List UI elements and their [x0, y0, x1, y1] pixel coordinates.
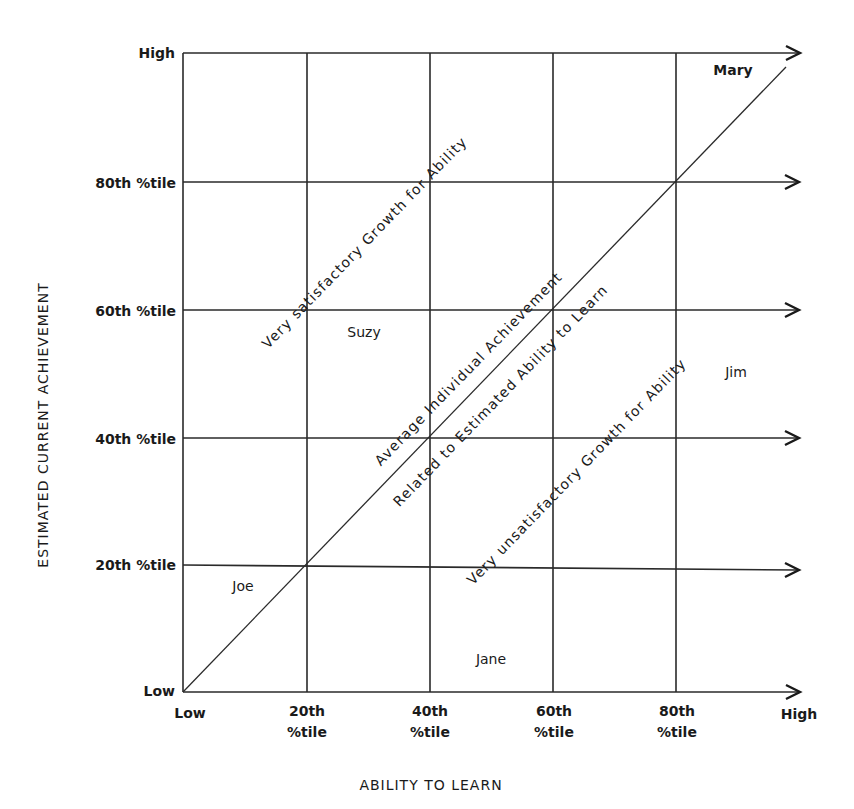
x-low-label: Low	[174, 705, 206, 721]
y-tick-40: 40th %tile	[95, 431, 176, 447]
student-joe: Joe	[231, 578, 253, 594]
x-tick-40-line2: %tile	[410, 724, 450, 740]
x-tick-80-line1: 80th	[659, 703, 695, 719]
y-tick-80: 80th %tile	[95, 175, 176, 191]
x-axis-title: ABILITY TO LEARN	[359, 777, 502, 793]
y-low-label: Low	[144, 683, 176, 699]
student-suzy: Suzy	[347, 324, 380, 340]
x-tick-80-line2: %tile	[657, 724, 697, 740]
y-axis-title: ESTIMATED CURRENT ACHIEVEMENT	[35, 282, 51, 567]
growth-diagram: High 80th %tile 60th %tile 40th %tile 20…	[0, 0, 854, 809]
x-tick-60-line2: %tile	[534, 724, 574, 740]
satisfactory-growth-label: Very satisfactory Growth for Ability	[259, 133, 470, 351]
y-tick-20: 20th %tile	[95, 557, 176, 573]
average-diagonal-line	[183, 67, 786, 692]
x-tick-40-line1: 40th	[412, 703, 448, 719]
student-jane: Jane	[475, 651, 506, 667]
arrowheads	[785, 46, 800, 699]
x-tick-20-line1: 20th	[289, 703, 325, 719]
y-high-label: High	[138, 45, 175, 61]
x-tick-60-line1: 60th	[536, 703, 572, 719]
y-tick-60: 60th %tile	[95, 303, 176, 319]
student-mary: Mary	[713, 62, 752, 78]
x-tick-20-line2: %tile	[287, 724, 327, 740]
student-jim: Jim	[724, 364, 747, 380]
x-high-label: High	[781, 706, 818, 722]
